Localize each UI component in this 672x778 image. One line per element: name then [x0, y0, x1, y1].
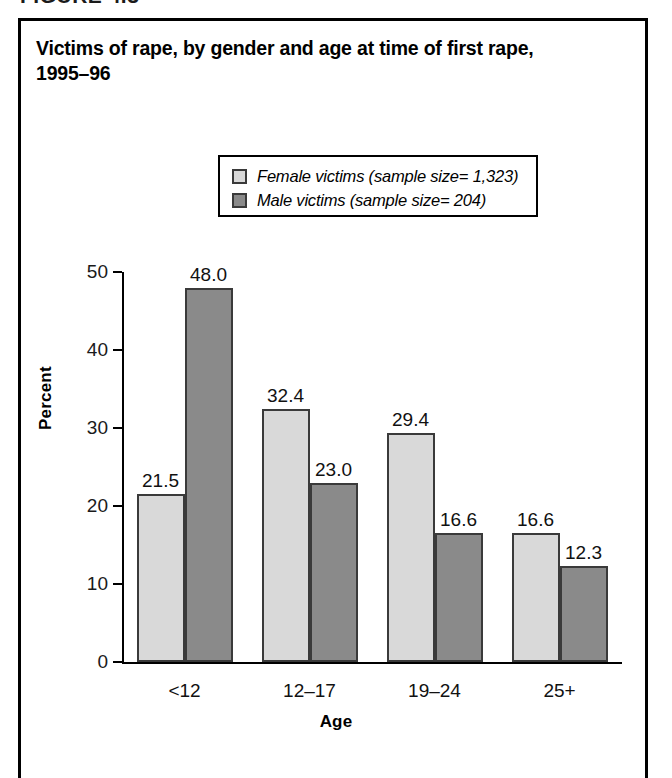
bar-male: 12.3 [560, 566, 608, 662]
y-tick-mark [113, 427, 122, 429]
x-category-label: <12 [168, 680, 200, 702]
y-tick-label: 30 [87, 417, 108, 439]
bar-female: 32.4 [262, 409, 310, 662]
bar-value-label: 21.5 [142, 470, 179, 492]
plot-area: 01020304050 21.548.032.423.029.416.616.6… [122, 272, 622, 662]
bar-male: 23.0 [310, 483, 358, 662]
chart-legend: Female victims (sample size= 1,323) Male… [218, 155, 538, 217]
y-tick-mark [113, 661, 122, 663]
y-tick-mark [113, 349, 122, 351]
bar-value-label: 16.6 [440, 509, 477, 531]
legend-label-female: Female victims (sample size= 1,323) [257, 167, 518, 186]
figure-number-label: FIGURE 4.3 [20, 0, 139, 8]
y-tick-mark [113, 505, 122, 507]
y-tick-label: 40 [87, 339, 108, 361]
legend-item-male: Male victims (sample size= 204) [232, 188, 536, 212]
x-axis-line [122, 662, 622, 664]
bar-female: 29.4 [387, 433, 435, 662]
bar-value-label: 12.3 [565, 542, 602, 564]
y-axis-title: Percent [36, 366, 56, 430]
y-tick-mark [113, 271, 122, 273]
y-tick-mark [113, 583, 122, 585]
bar-value-label: 16.6 [517, 509, 554, 531]
chart-title-line-1: Victims of rape, by gender and age at ti… [36, 36, 616, 61]
bar-value-label: 23.0 [315, 459, 352, 481]
x-axis-title: Age [0, 712, 672, 732]
bar-male: 48.0 [185, 288, 233, 662]
x-category-label: 19–24 [408, 680, 461, 702]
bar-female: 21.5 [137, 494, 185, 662]
y-axis-line [122, 272, 124, 662]
legend-swatch-male [232, 193, 247, 208]
y-tick-label: 20 [87, 495, 108, 517]
y-tick-label: 0 [97, 651, 108, 673]
legend-label-male: Male victims (sample size= 204) [257, 191, 486, 210]
bar-female: 16.6 [512, 533, 560, 662]
x-category-label: 25+ [543, 680, 575, 702]
bar-male: 16.6 [435, 533, 483, 662]
bar-value-label: 32.4 [267, 385, 304, 407]
chart-title-line-2: 1995–96 [36, 61, 616, 86]
chart-title: Victims of rape, by gender and age at ti… [36, 36, 616, 86]
y-tick-label: 10 [87, 573, 108, 595]
y-tick-label: 50 [87, 261, 108, 283]
bar-value-label: 48.0 [190, 264, 227, 286]
legend-swatch-female [232, 169, 247, 184]
legend-item-female: Female victims (sample size= 1,323) [232, 164, 536, 188]
bar-value-label: 29.4 [392, 409, 429, 431]
x-category-label: 12–17 [283, 680, 336, 702]
